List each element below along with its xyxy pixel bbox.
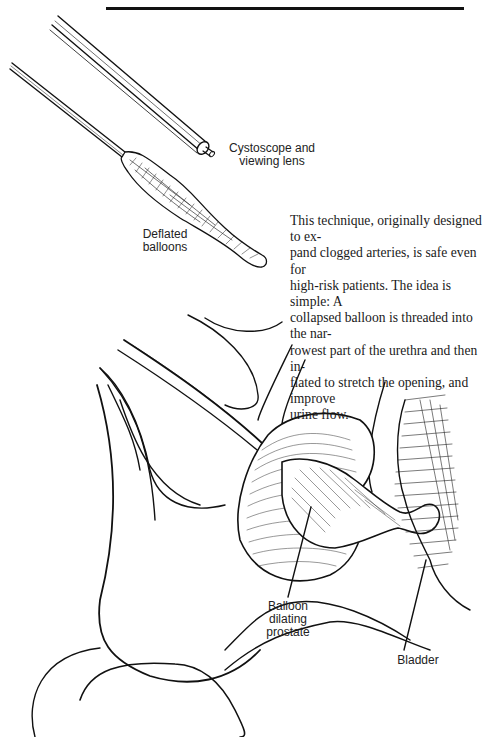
- paragraph-line: pand clogged arteries, is safe even for: [290, 245, 486, 277]
- cystoscope-label-line2: viewing lens: [224, 155, 320, 168]
- paragraph-line: flated to stretch the opening, and impro…: [290, 375, 486, 407]
- paragraph-line: urine flow.: [290, 407, 486, 423]
- paragraph-line: rowest part of the urethra and then in-: [290, 343, 486, 375]
- paragraph-line: This technique, originally designed to e…: [290, 213, 486, 245]
- deflated-balloons-label: Deflated balloons: [135, 228, 195, 254]
- balloon-label-line3: prostate: [255, 626, 321, 639]
- paragraph-line: high-risk patients. The idea is simple: …: [290, 278, 486, 310]
- bladder-label-text: Bladder: [388, 654, 448, 667]
- cystoscope-label: Cystoscope and viewing lens: [224, 142, 320, 168]
- bladder-label: Bladder: [388, 654, 448, 667]
- balloon-dilating-prostate-label: Balloon dilating prostate: [255, 600, 321, 639]
- deflated-balloons-label-line2: balloons: [135, 241, 195, 254]
- body-paragraph: This technique, originally designed to e…: [290, 213, 486, 424]
- paragraph-line: collapsed balloon is threaded into the n…: [290, 310, 486, 342]
